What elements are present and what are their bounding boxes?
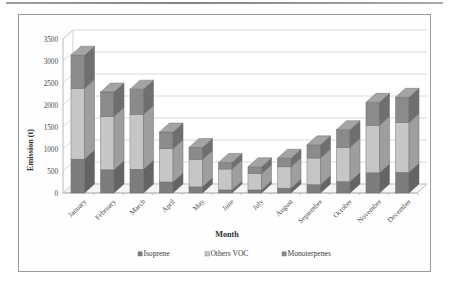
- bar-segment: [130, 89, 144, 114]
- bar-stack: [307, 136, 331, 193]
- bar-segment: [395, 172, 409, 193]
- page-rule: [6, 2, 443, 4]
- bar-stack: [395, 88, 419, 193]
- x-axis-tick-label: May: [191, 197, 206, 212]
- y-axis-tick-label: 3000: [44, 58, 59, 66]
- bar-segment: [248, 174, 262, 190]
- bar-stack: [189, 138, 213, 193]
- bar-segment: [71, 159, 85, 193]
- figure-frame: 0500100015002000250030003500 JanuaryFebr…: [18, 14, 431, 272]
- bar-segment: [71, 55, 85, 88]
- bar-segment: [336, 147, 350, 181]
- bar-segment: [130, 169, 144, 193]
- stacked-bar-chart: 0500100015002000250030003500 JanuaryFebr…: [19, 15, 432, 273]
- bar-stack: [366, 93, 390, 193]
- bar-segment: [189, 147, 203, 159]
- y-axis-tick-label: 3500: [44, 36, 59, 44]
- bar-stack: [159, 123, 183, 193]
- bar-segment: [100, 92, 114, 116]
- chart-legend: IsopreneOthers VOCMonoterpenes: [138, 249, 331, 258]
- legend-label: Isoprene: [143, 249, 170, 258]
- x-axis-ticks: JanuaryFebruaryMarchAprilMayJuneJulyAugu…: [67, 193, 419, 225]
- bar-stack: [100, 83, 124, 193]
- y-axis-tick-label: 0: [54, 190, 58, 198]
- bar-segment: [277, 188, 291, 193]
- bar-segment: [366, 125, 380, 173]
- bar-segment: [100, 116, 114, 169]
- x-axis-tick-label: June: [221, 198, 236, 213]
- x-axis-title: Month: [215, 230, 239, 239]
- x-axis-tick-label: August: [274, 198, 294, 218]
- bar-segment: [130, 114, 144, 169]
- bar-segment: [218, 190, 232, 193]
- x-axis-tick-label: March: [128, 197, 147, 216]
- y-axis-ticks: 0500100015002000250030003500: [44, 36, 59, 198]
- x-axis-tick-label: July: [251, 197, 265, 211]
- legend-label: Monoterpenes: [287, 249, 330, 258]
- bar-segment: [159, 182, 173, 193]
- bar-segment: [277, 167, 291, 188]
- bar-stack: [130, 80, 154, 193]
- x-axis-tick-label: April: [160, 198, 176, 214]
- x-axis-tick-label: October: [332, 197, 354, 219]
- x-axis-tick-label: September: [297, 197, 325, 225]
- bar-segment: [336, 182, 350, 193]
- bar-segment: [100, 170, 114, 193]
- bar-stack: [71, 46, 95, 193]
- x-axis-tick-label: December: [386, 197, 413, 224]
- legend-marker-square-marker: [138, 252, 142, 256]
- bar-stack: [336, 121, 360, 193]
- bar-segment: [395, 122, 409, 172]
- bar-segment: [159, 132, 173, 149]
- x-axis-tick-label: November: [356, 197, 384, 225]
- legend-marker-square-marker: [205, 252, 209, 256]
- y-axis-tick-label: 500: [47, 168, 58, 176]
- bar-segment: [366, 173, 380, 193]
- bar-segment: [218, 162, 232, 169]
- y-axis-tick-label: 1000: [44, 146, 59, 154]
- bar-segment: [248, 190, 262, 193]
- legend-label: Others VOC: [210, 249, 248, 258]
- bar-stack: [218, 153, 242, 193]
- bar-segment: [277, 158, 291, 167]
- y-axis-title: Emission (t): [26, 129, 35, 171]
- y-axis-tick-label: 1500: [44, 124, 59, 132]
- bar-segment: [159, 149, 173, 182]
- bar-segment: [307, 145, 321, 158]
- bar-segment: [395, 97, 409, 122]
- bar-segment: [307, 185, 321, 193]
- bar-segment: [336, 130, 350, 148]
- bar-segment: [248, 167, 262, 174]
- bar-segment: [307, 158, 321, 185]
- bar-segment: [189, 187, 203, 193]
- x-axis-tick-label: January: [67, 197, 89, 219]
- y-axis-tick-label: 2500: [44, 80, 59, 88]
- bar-segment: [366, 102, 380, 125]
- chart-plot-area: 0500100015002000250030003500 JanuaryFebr…: [19, 15, 432, 273]
- y-axis-tick-label: 2000: [44, 102, 59, 110]
- x-axis-tick-label: February: [94, 197, 118, 221]
- legend-marker-square-marker: [282, 252, 286, 256]
- bar-segment: [71, 88, 85, 159]
- bar-stack: [277, 149, 301, 193]
- bar-segment: [218, 169, 232, 190]
- bar-segment: [189, 160, 203, 187]
